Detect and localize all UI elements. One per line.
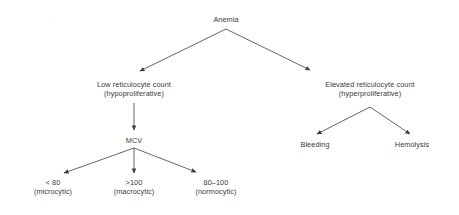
node-microcytic-label: < 80 (46, 178, 61, 187)
edge-mcv-to-normocytic (134, 148, 196, 172)
node-macrocytic: >100 (macrocytic) (114, 178, 155, 197)
node-hemolysis: Hemolysis (395, 140, 429, 149)
node-normocytic-sublabel: (normocytic) (195, 187, 236, 196)
node-mcv-label: MCV (126, 136, 142, 145)
node-normocytic: 80–100 (normocytic) (195, 178, 236, 197)
node-anemia-label: Anemia (213, 15, 238, 24)
scan-artifact: i (54, 16, 56, 23)
edge-mcv-to-microcytic (64, 148, 134, 173)
edge-elevated-retic-to-bleeding (317, 107, 370, 134)
node-elevated-reticulocyte-count-sublabel: (hyperproliferative) (325, 89, 414, 98)
node-microcytic-sublabel: (microcytic) (34, 187, 72, 196)
node-macrocytic-label: >100 (126, 178, 143, 187)
edge-anemia-to-low-retic (140, 29, 226, 71)
node-hemolysis-label: Hemolysis (395, 140, 429, 149)
node-microcytic: < 80 (microcytic) (34, 178, 72, 197)
node-normocytic-label: 80–100 (204, 178, 229, 187)
node-mcv: MCV (126, 136, 142, 145)
node-low-reticulocyte-count-label: Low reticulocyte count (97, 80, 171, 89)
edge-anemia-to-elevated-retic (226, 29, 310, 70)
node-bleeding-label: Bleeding (300, 140, 329, 149)
node-low-reticulocyte-count-sublabel: (hypoproliferative) (97, 89, 171, 98)
node-macrocytic-sublabel: (macrocytic) (114, 187, 155, 196)
edge-elevated-retic-to-hemolysis (370, 107, 410, 134)
node-elevated-reticulocyte-count-label: Elevated reticulocyte count (325, 80, 414, 89)
node-elevated-reticulocyte-count: Elevated reticulocyte count (hyperprolif… (325, 80, 414, 99)
node-low-reticulocyte-count: Low reticulocyte count (hypoproliferativ… (97, 80, 171, 99)
anemia-flowchart: i Anemia Low reticulocyte count (hypopro… (0, 0, 459, 215)
node-bleeding: Bleeding (300, 140, 329, 149)
node-anemia: Anemia (213, 15, 238, 24)
